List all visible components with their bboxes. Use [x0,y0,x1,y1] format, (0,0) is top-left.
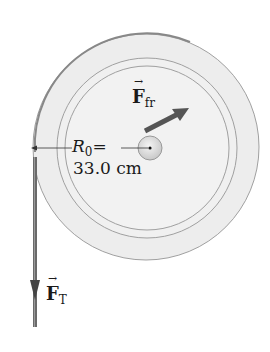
tension-force-label: FT [46,283,67,307]
friction-force-subscript: fr [145,96,155,110]
radius-symbol: R [72,136,85,156]
radius-value: 33.0 cm [73,158,142,178]
tension-force-subscript: T [59,293,67,307]
rope-highlight [34,157,35,327]
radius-equals: = [92,136,106,156]
friction-force-label: Ffr [132,86,155,110]
friction-force-symbol: F [132,86,145,107]
radius-label: R0= [72,136,107,159]
tension-arrowhead [30,280,40,300]
tension-force-symbol: F [46,283,59,304]
axle-center-dot [148,146,151,149]
